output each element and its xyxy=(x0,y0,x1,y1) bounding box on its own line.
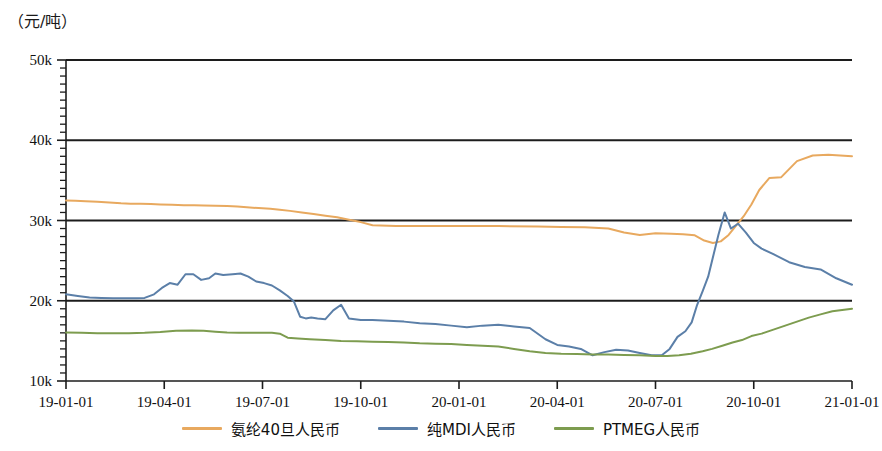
legend-swatch-mdi xyxy=(378,427,418,430)
x-tick-label: 19-01-01 xyxy=(39,394,94,410)
x-tick-label: 19-04-01 xyxy=(137,394,192,410)
y-tick-label: 20k xyxy=(30,293,53,309)
gridlines-group xyxy=(66,60,852,381)
y-tick-labels-group: 10k20k30k40k50k xyxy=(30,52,53,389)
legend-label-spandex: 氨纶40旦人民币 xyxy=(231,418,340,439)
series-line-0 xyxy=(66,155,852,243)
legend-swatch-spandex xyxy=(182,427,222,430)
legend-item-spandex[interactable]: 氨纶40旦人民币 xyxy=(182,418,340,439)
x-tick-label: 19-10-01 xyxy=(333,394,388,410)
x-tick-label: 20-01-01 xyxy=(432,394,487,410)
x-tick-label: 21-01-01 xyxy=(825,394,880,410)
legend-label-ptmeg: PTMEG人民币 xyxy=(603,418,700,439)
series-line-1 xyxy=(66,212,852,355)
series-lines-group xyxy=(66,155,852,356)
x-tick-label: 19-07-01 xyxy=(235,394,290,410)
series-line-2 xyxy=(66,309,852,356)
x-tick-labels-group: 19-01-0119-04-0119-07-0119-10-0120-01-01… xyxy=(39,394,880,410)
legend-item-ptmeg[interactable]: PTMEG人民币 xyxy=(554,418,700,439)
chart-legend: 氨纶40旦人民币 纯MDI人民币 PTMEG人民币 xyxy=(0,418,882,439)
y-tick-label: 10k xyxy=(30,373,53,389)
y-tick-label: 50k xyxy=(30,52,53,68)
legend-item-mdi[interactable]: 纯MDI人民币 xyxy=(378,418,516,439)
x-tick-label: 20-07-01 xyxy=(628,394,683,410)
legend-swatch-ptmeg xyxy=(554,427,594,430)
chart-plot-area: 10k20k30k40k50k 19-01-0119-04-0119-07-01… xyxy=(0,0,882,418)
x-tick-group xyxy=(66,381,852,389)
x-tick-label: 20-10-01 xyxy=(726,394,781,410)
y-tick-label: 40k xyxy=(30,132,53,148)
y-tick-label: 30k xyxy=(30,213,53,229)
legend-label-mdi: 纯MDI人民币 xyxy=(427,418,516,439)
price-line-chart: （元/吨） 10k20k30k40k50k 19-01-0119-04-0119… xyxy=(0,0,882,451)
y-tick-group xyxy=(57,60,66,381)
x-tick-label: 20-04-01 xyxy=(530,394,585,410)
